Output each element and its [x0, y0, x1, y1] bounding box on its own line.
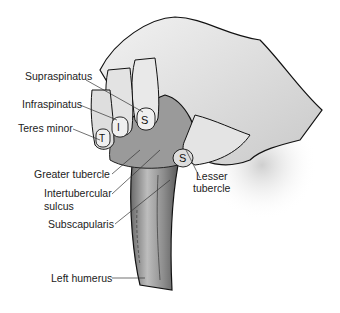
label-teres-minor: Teres minor [18, 122, 73, 134]
humerus-shaft [131, 165, 178, 290]
middle-nail [112, 117, 128, 137]
label-greater-tubercle: Greater tubercle [34, 168, 110, 180]
label-left-humerus: Left humerus [51, 272, 112, 284]
middle-nail-letter: I [117, 122, 120, 133]
label-tubercle: tubercle [193, 182, 230, 194]
label-intertubercular: Intertubercular [44, 187, 112, 199]
label-sulcus: sulcus [44, 200, 74, 212]
anatomy-illustration: S S I T [0, 0, 340, 313]
label-lesser: Lesser [196, 170, 228, 182]
ring-nail-letter: T [99, 133, 105, 144]
label-supraspinatus: Supraspinatus [25, 70, 92, 82]
label-subscapularis: Subscapularis [48, 218, 114, 230]
label-infraspinatus: Infraspinatus [22, 98, 82, 110]
index-nail-letter: S [141, 114, 148, 126]
thumb-nail-letter: S [179, 152, 186, 164]
